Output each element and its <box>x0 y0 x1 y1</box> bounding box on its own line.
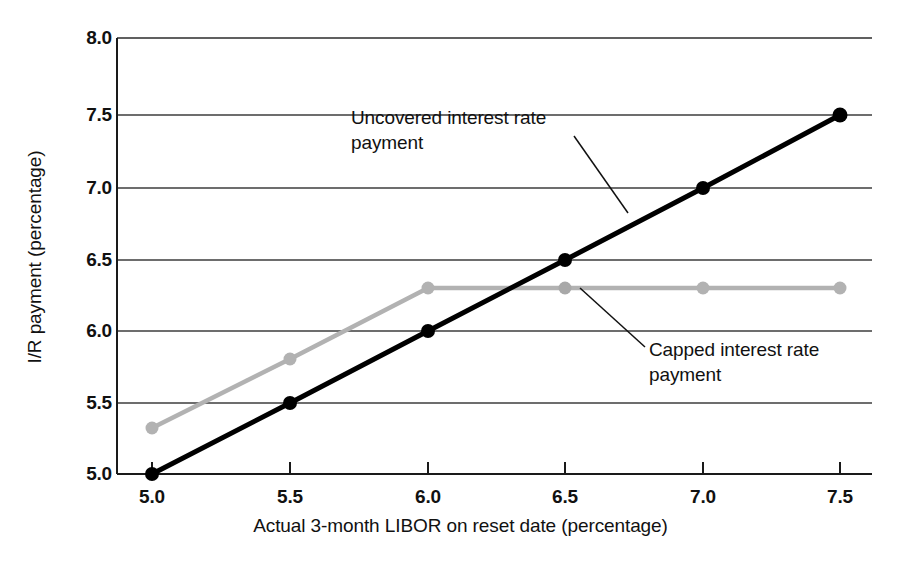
chart-figure: 8.0 7.5 7.0 6.5 6.0 5.5 5.0 5.0 5.5 6.0 … <box>0 0 921 565</box>
x-tick-7.5: 7.5 <box>805 487 875 506</box>
annotation-capped-interest-rate-payment: Capped interest rate payment <box>649 337 819 388</box>
x-tick-5.0: 5.0 <box>117 487 187 506</box>
series-uncovered-interest-rate-payment <box>145 108 848 482</box>
x-tick-6.0: 6.0 <box>393 487 463 506</box>
y-axis-label: I/R payment (percentage) <box>24 47 46 467</box>
x-axis-ticks <box>152 462 840 474</box>
x-axis-label: Actual 3-month LIBOR on reset date (perc… <box>0 515 921 537</box>
x-tick-5.5: 5.5 <box>255 487 325 506</box>
annotation-leader-lines <box>574 136 645 347</box>
annotation-uncovered-interest-rate-payment: Uncovered interest rate payment <box>351 105 546 156</box>
x-tick-7.0: 7.0 <box>668 487 738 506</box>
plot-area <box>0 0 921 565</box>
x-tick-6.5: 6.5 <box>530 487 600 506</box>
